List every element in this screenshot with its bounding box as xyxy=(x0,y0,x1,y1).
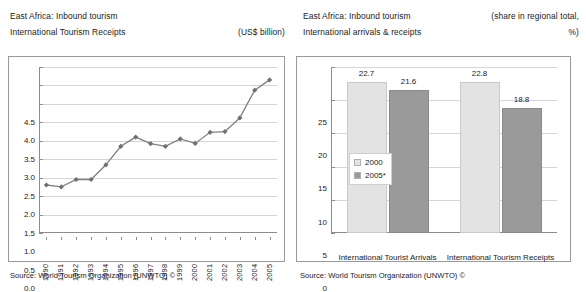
left-y-tick-label: 3.0 xyxy=(15,174,35,182)
right-y-axis-labels: 2520151050 xyxy=(305,123,327,289)
category-label-arrivals: International Tourist Arrivals xyxy=(331,253,444,262)
left-x-tick-label: 2001 xyxy=(206,241,213,281)
right-chart-source: Source: World Tourism Organization (UNWT… xyxy=(300,271,465,280)
left-y-tickmark xyxy=(39,122,43,123)
left-x-tickmark xyxy=(121,237,122,240)
left-x-tickmark xyxy=(225,237,226,240)
legend-label-2005: 2005* xyxy=(365,172,386,180)
left-x-tickmark xyxy=(61,237,62,240)
right-y-tickmark xyxy=(331,233,335,234)
left-y-tick-label: 2.0 xyxy=(15,211,35,219)
figure-pair: East Africa: Inbound tourism Internation… xyxy=(0,0,586,292)
left-y-tickmark xyxy=(39,233,43,234)
left-y-tick-label: 1.5 xyxy=(15,230,35,238)
left-x-tickmark xyxy=(46,237,47,240)
legend-swatch-2000 xyxy=(354,159,361,166)
left-x-tickmark xyxy=(255,237,256,240)
left-y-tick-label: 4.0 xyxy=(15,137,35,145)
right-y-tick-label: 5 xyxy=(305,252,327,260)
left-chart-unit-label: (US$ billion) xyxy=(175,27,285,38)
left-y-tickmark xyxy=(39,159,43,160)
legend-swatch-2005 xyxy=(354,172,361,179)
right-y-tickmark xyxy=(331,67,335,68)
left-chart-source: Source: World Tourism Organization (UNWT… xyxy=(10,271,175,280)
left-y-tick-label: 4.5 xyxy=(15,119,35,127)
left-x-tick-label: 2002 xyxy=(221,241,228,281)
left-x-tickmark xyxy=(151,237,152,240)
right-chart-legend: 20002005* xyxy=(349,153,392,185)
left-y-tickmark xyxy=(39,215,43,216)
left-y-axis-labels: 4.54.03.53.02.52.01.51.00.50.0 xyxy=(15,123,35,289)
left-y-tickmark xyxy=(39,141,43,142)
right-y-axis-line xyxy=(331,67,332,233)
legend-label-2000: 2000 xyxy=(365,159,383,167)
right-y-tickmark xyxy=(331,167,335,168)
left-y-tickmark xyxy=(39,178,43,179)
legend-item-2005: 2005* xyxy=(354,170,386,181)
right-chart-title-line1: East Africa: Inbound tourism xyxy=(303,11,411,22)
left-x-tickmark xyxy=(180,237,181,240)
left-chart-title-line2: International Tourism Receipts xyxy=(10,27,126,38)
left-x-tickmark xyxy=(106,237,107,240)
left-x-tickmark xyxy=(240,237,241,240)
bar-value-label: 22.8 xyxy=(454,70,506,78)
bar-value-label: 18.8 xyxy=(496,96,548,104)
left-y-tick-label: 3.5 xyxy=(15,156,35,164)
left-x-tick-label: 2004 xyxy=(251,241,258,281)
left-x-tick-label: 2000 xyxy=(191,241,198,281)
left-plot-area xyxy=(39,67,277,233)
left-y-tickmark xyxy=(39,85,43,86)
left-x-tickmark xyxy=(210,237,211,240)
right-chart-unit-label-line2: %) xyxy=(433,27,579,38)
left-x-tickmark xyxy=(91,237,92,240)
left-chart-frame: 4.54.03.53.02.52.01.51.00.50.0 199019911… xyxy=(8,56,285,262)
right-y-tickmark xyxy=(331,200,335,201)
category-label-receipts: International Tourism Receipts xyxy=(444,253,557,262)
left-x-tickmark xyxy=(165,237,166,240)
right-y-tickmark xyxy=(331,100,335,101)
left-x-tickmark xyxy=(195,237,196,240)
left-y-tickmark xyxy=(39,104,43,105)
left-y-tick-label: 2.5 xyxy=(15,193,35,201)
left-y-tick-label: 0.0 xyxy=(15,285,35,292)
legend-item-2000: 2000 xyxy=(354,157,386,168)
right-y-tick-label: 20 xyxy=(305,152,327,160)
right-y-tickmark xyxy=(331,133,335,134)
right-y-tick-label: 10 xyxy=(305,219,327,227)
bar-2005-arrivals xyxy=(389,90,429,233)
left-x-tick-label: 2005 xyxy=(266,241,273,281)
left-x-tick-label: 2003 xyxy=(236,241,243,281)
right-plot-area: 22.721.6International Tourist Arrivals22… xyxy=(331,67,557,233)
left-x-tickmark xyxy=(270,237,271,240)
bar-2000-receipts xyxy=(460,82,500,233)
left-x-tick-label: 1999 xyxy=(176,241,183,281)
bar-value-label: 21.6 xyxy=(383,78,435,86)
left-x-tickmark xyxy=(76,237,77,240)
bar-2005-receipts xyxy=(502,108,542,233)
left-x-tickmark xyxy=(136,237,137,240)
left-chart-panel: East Africa: Inbound tourism Internation… xyxy=(0,0,293,292)
left-chart-title-line1: East Africa: Inbound tourism xyxy=(10,11,118,22)
left-y-tickmark xyxy=(39,196,43,197)
right-y-tick-label: 0 xyxy=(305,285,327,292)
left-y-tick-label: 1.0 xyxy=(15,248,35,256)
right-chart-title-line2: International arrivals & receipts xyxy=(303,27,421,38)
right-chart-panel: East Africa: Inbound tourism Internation… xyxy=(293,0,586,292)
right-gridline xyxy=(331,67,557,68)
right-y-tick-label: 25 xyxy=(305,119,327,127)
right-y-tick-label: 15 xyxy=(305,185,327,193)
right-chart-frame: 2520151050 22.721.6International Tourist… xyxy=(296,56,571,262)
right-chart-unit-label-line1: (share in regional total, xyxy=(433,11,579,22)
left-y-tickmark xyxy=(39,67,43,68)
left-line-series xyxy=(39,67,277,233)
